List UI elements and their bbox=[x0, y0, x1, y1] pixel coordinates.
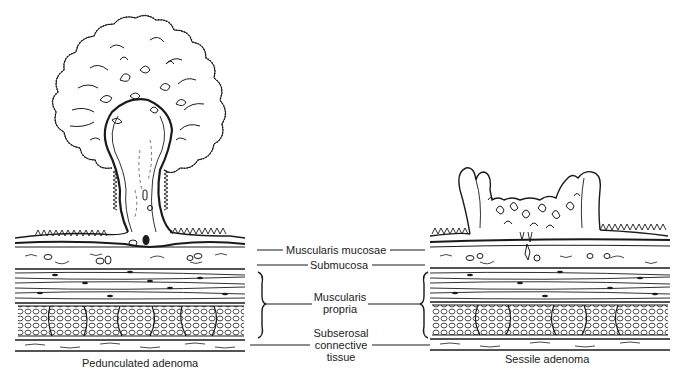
left-brace bbox=[258, 272, 266, 338]
left-wall-layers bbox=[15, 232, 245, 351]
caption-pedunculated-adenoma: Pedunculated adenoma bbox=[82, 357, 198, 369]
label-subserosal-line1: Subserosal bbox=[310, 327, 372, 339]
label-muscularis-mucosae: Muscularis mucosae bbox=[286, 244, 386, 256]
right-brace bbox=[420, 272, 428, 338]
label-muscularis-propria-line1: Muscularis bbox=[312, 291, 368, 303]
label-muscularis-propria-line2: propria bbox=[312, 303, 368, 315]
label-muscularis-propria: Muscularis propria bbox=[312, 291, 368, 315]
caption-sessile-adenoma: Sessile adenoma bbox=[505, 353, 589, 365]
label-subserosal-connective-tissue: Subserosal connective tissue bbox=[310, 327, 372, 363]
sessile-adenoma-illustration bbox=[430, 168, 670, 350]
label-subserosal-line3: tissue bbox=[310, 351, 372, 363]
adenoma-diagram bbox=[0, 0, 686, 378]
label-submucosa: Submucosa bbox=[310, 259, 368, 271]
pedunculated-adenoma-illustration bbox=[15, 15, 245, 351]
label-subserosal-line2: connective bbox=[310, 339, 372, 351]
